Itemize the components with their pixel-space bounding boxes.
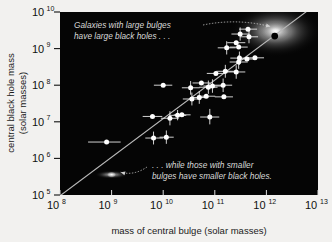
data-point [197,95,202,100]
data-point [246,27,251,32]
black-hole-mass-vs-bulge-mass-figure: Galaxies with large bulgeshave large bla… [0,0,332,242]
svg-text:5: 5 [47,188,51,195]
data-point [161,83,166,88]
data-point [252,55,257,60]
data-point [188,85,193,90]
data-point [164,135,169,140]
data-point [204,94,209,99]
data-point [151,136,156,141]
data-point [104,140,109,145]
data-point [167,116,172,121]
data-point [246,34,251,39]
svg-text:10: 10 [32,116,44,128]
svg-text:10: 10 [32,43,44,55]
svg-text:10: 10 [32,152,44,164]
svg-text:11: 11 [217,198,224,205]
data-point [189,96,194,101]
data-point [234,69,239,74]
small-bulges-annotation-line2: bulges have smaller black holes. [152,171,272,181]
svg-text:10: 10 [253,199,265,211]
svg-text:10: 10 [32,6,44,18]
svg-text:10: 10 [150,199,162,211]
svg-text:10: 10 [305,199,317,211]
svg-text:10: 10 [32,189,44,201]
large-bulges-annotation-line2: have large black holes . . . [74,31,170,41]
svg-text:12: 12 [268,198,276,205]
svg-text:10: 10 [202,199,214,211]
data-point [175,113,180,118]
data-point [234,40,239,45]
data-point [244,56,249,61]
data-point [238,32,243,37]
svg-text:13: 13 [320,198,328,205]
x-axis-title: mass of central bulge (solar masses) [111,225,266,236]
data-point [150,114,155,119]
scatter-plot-svg: Galaxies with large bulgeshave large bla… [0,0,332,242]
data-point [207,115,212,120]
data-point [221,94,226,99]
svg-text:10: 10 [47,5,55,12]
data-point [210,84,215,89]
svg-text:10: 10 [165,198,173,205]
svg-text:9: 9 [114,198,118,205]
svg-text:7: 7 [47,114,51,121]
highlight-data-point [271,33,278,40]
svg-text:10: 10 [98,199,110,211]
svg-text:10: 10 [32,79,44,91]
svg-text:9: 9 [47,41,51,48]
svg-text:8: 8 [47,78,51,85]
svg-text:10: 10 [47,199,59,211]
data-point [213,71,218,76]
data-point [199,80,204,85]
data-point [223,69,228,74]
large-bulges-annotation-line1: Galaxies with large bulges [74,20,171,30]
small-bulges-annotation-line1: . . . while those with smaller [152,160,255,170]
y-axis-title-line1: central black hole mass [5,53,16,153]
data-point [236,45,241,50]
y-axis-title-line2: (solar masses) [17,72,28,134]
data-point [179,112,184,117]
data-point [236,60,241,65]
svg-text:6: 6 [47,151,51,158]
svg-text:8: 8 [62,198,66,205]
data-point [224,45,229,50]
data-point [221,83,226,88]
